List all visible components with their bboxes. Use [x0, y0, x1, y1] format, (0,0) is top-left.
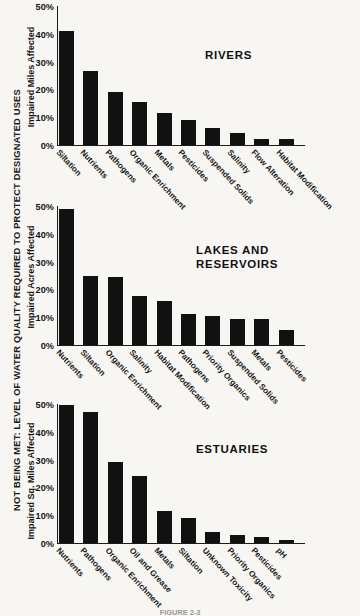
- bar: [157, 301, 172, 345]
- bar: [83, 412, 98, 543]
- y-axis-ticks: 0%10%20%30%40%50%: [22, 406, 54, 542]
- bar: [279, 540, 294, 543]
- x-axis-line: [57, 543, 305, 544]
- plot-area: [59, 404, 305, 543]
- bar: [181, 120, 196, 145]
- y-tick-label: 0%: [41, 342, 54, 351]
- bar: [59, 405, 74, 543]
- chart-panel-estuaries: Impaired Sq. Miles Affected0%10%20%30%40…: [0, 398, 360, 616]
- y-tick-label: 40%: [36, 31, 54, 40]
- bar: [205, 532, 220, 543]
- bar: [83, 276, 98, 346]
- y-tick-label: 10%: [36, 115, 54, 124]
- x-axis-categories: NutrientsPathogensOrganic EnrichmentOil …: [59, 546, 359, 616]
- x-tick-label: Metals: [152, 148, 176, 173]
- x-tick-label: Metals: [250, 348, 274, 373]
- y-tick-label: 10%: [36, 315, 54, 324]
- x-axis-line: [57, 145, 305, 146]
- y-tick-label: 30%: [36, 259, 54, 268]
- bar: [132, 476, 147, 543]
- bar: [108, 92, 123, 145]
- chart-title: RIVERS: [205, 48, 252, 62]
- figure-bottom-caption: FIGURE 2-3: [0, 608, 360, 616]
- y-tick-label: 0%: [41, 142, 54, 151]
- y-tick-label: 30%: [36, 457, 54, 466]
- y-axis-ticks: 0%10%20%30%40%50%: [22, 208, 54, 344]
- bar: [108, 277, 123, 345]
- x-tick-label: Pesticides: [274, 348, 308, 384]
- bar: [205, 316, 220, 345]
- y-tick-label: 10%: [36, 513, 54, 522]
- y-tick-label: 40%: [36, 429, 54, 438]
- chart-panel-rivers: Impaired Miles Affected0%10%20%30%40%50%…: [0, 0, 360, 200]
- bar: [205, 128, 220, 145]
- chart-panel-lakes-and: Impaired Acres Affected0%10%20%30%40%50%…: [0, 200, 360, 398]
- plot-area: [59, 206, 305, 345]
- y-tick-label: 20%: [36, 87, 54, 96]
- x-tick-label: Flow Alteration: [250, 148, 297, 197]
- x-tick-label: pH: [274, 546, 288, 560]
- bar: [254, 319, 269, 345]
- bar: [83, 71, 98, 145]
- bar: [254, 139, 269, 145]
- bar: [279, 139, 294, 145]
- chart-title: ESTUARIES: [196, 442, 268, 456]
- y-tick-label: 0%: [41, 540, 54, 549]
- x-axis-line: [57, 345, 305, 346]
- x-tick-label: Metals: [152, 546, 176, 571]
- y-tick-label: 50%: [36, 203, 54, 212]
- chart-title: LAKES AND RESERVOIRS: [196, 243, 278, 271]
- bar: [230, 319, 245, 345]
- bar: [181, 314, 196, 345]
- bar: [279, 330, 294, 345]
- y-axis-ticks: 0%10%20%30%40%50%: [22, 8, 54, 144]
- bar: [132, 102, 147, 145]
- y-tick-label: 50%: [36, 3, 54, 12]
- x-tick-label: Oil and Grease: [128, 546, 174, 594]
- plot-area: [59, 6, 305, 145]
- y-tick-label: 20%: [36, 485, 54, 494]
- bar: [59, 31, 74, 145]
- bar: [59, 209, 74, 345]
- bar: [157, 113, 172, 145]
- bar: [132, 296, 147, 345]
- y-tick-label: 30%: [36, 59, 54, 68]
- y-tick-label: 20%: [36, 287, 54, 296]
- bar: [254, 537, 269, 543]
- y-tick-label: 40%: [36, 231, 54, 240]
- bar: [230, 535, 245, 543]
- y-tick-label: 50%: [36, 401, 54, 410]
- bar: [157, 511, 172, 543]
- bar: [108, 462, 123, 543]
- bar: [181, 518, 196, 543]
- bar: [230, 133, 245, 146]
